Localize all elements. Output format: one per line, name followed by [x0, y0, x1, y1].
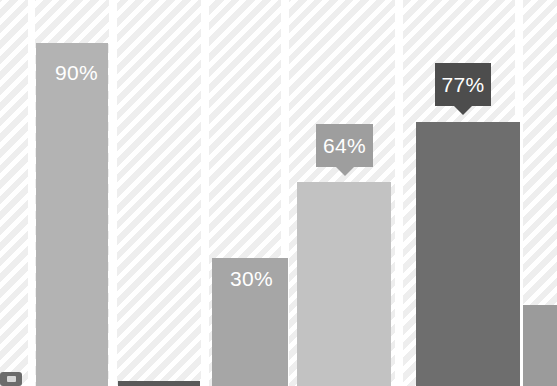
column-background-3: [117, 0, 201, 386]
callout-77-text: 77%: [442, 74, 485, 95]
corner-badge[interactable]: [0, 372, 22, 386]
callout-64[interactable]: 64%: [316, 124, 373, 167]
bar-right-partial[interactable]: [523, 305, 557, 386]
callout-64-pointer: [336, 167, 354, 176]
column-background-1: [0, 0, 28, 386]
callout-77[interactable]: 77%: [435, 63, 491, 106]
badge-square-icon: [7, 376, 16, 382]
bar-77[interactable]: [416, 122, 520, 386]
bar-64[interactable]: [297, 182, 391, 386]
callout-64-text: 64%: [323, 135, 366, 156]
bar-chart-canvas: 90% 30% 64% 77%: [0, 0, 557, 386]
callout-77-pointer: [454, 106, 472, 115]
bar-label-30: 30%: [230, 268, 273, 289]
bar-sliver[interactable]: [118, 381, 200, 386]
bar-label-90: 90%: [55, 62, 98, 83]
bar-90[interactable]: [36, 43, 108, 386]
